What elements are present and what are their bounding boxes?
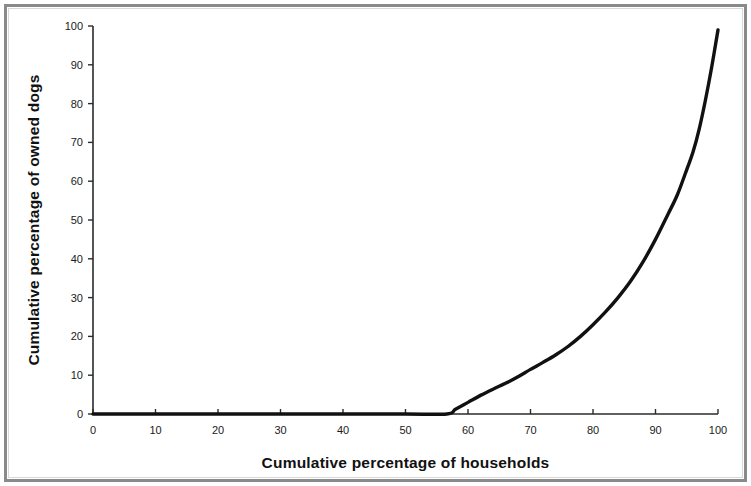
data-series-line bbox=[93, 30, 718, 414]
y-axis-tick-label: 70 bbox=[71, 136, 83, 148]
y-axis-tick-label: 60 bbox=[71, 175, 83, 187]
x-axis-title: Cumulative percentage of households bbox=[262, 454, 550, 471]
x-axis-tick-label: 30 bbox=[274, 424, 286, 436]
chart-plot-area: 0102030405060708090100 01020304050607080… bbox=[0, 0, 751, 486]
x-axis-tick-label: 60 bbox=[462, 424, 474, 436]
y-axis-tick-label: 10 bbox=[71, 369, 83, 381]
y-axis-tick-label: 40 bbox=[71, 253, 83, 265]
x-axis-tick-label: 10 bbox=[149, 424, 161, 436]
y-axis-tick-label: 100 bbox=[65, 20, 83, 32]
y-axis-tick-label: 90 bbox=[71, 59, 83, 71]
x-axis-tick-label: 80 bbox=[587, 424, 599, 436]
x-axis-tick-label: 20 bbox=[212, 424, 224, 436]
y-axis-tick-labels: 0102030405060708090100 bbox=[65, 20, 83, 420]
x-axis-tick-label: 100 bbox=[709, 424, 727, 436]
x-axis-tick-labels: 0102030405060708090100 bbox=[90, 424, 727, 436]
x-axis-tick-label: 70 bbox=[524, 424, 536, 436]
y-axis-tick-label: 50 bbox=[71, 214, 83, 226]
y-axis-tick-label: 0 bbox=[77, 408, 83, 420]
figure-container: 0102030405060708090100 01020304050607080… bbox=[0, 0, 751, 486]
y-axis-title: Cumulative percentage of owned dogs bbox=[25, 74, 42, 365]
y-axis-tick-label: 80 bbox=[71, 98, 83, 110]
x-axis-tick-label: 40 bbox=[337, 424, 349, 436]
y-axis-tick-label: 30 bbox=[71, 292, 83, 304]
x-axis-tick-label: 50 bbox=[399, 424, 411, 436]
y-axis-tick-label: 20 bbox=[71, 330, 83, 342]
x-axis-tick-label: 0 bbox=[90, 424, 96, 436]
x-axis-tick-label: 90 bbox=[649, 424, 661, 436]
